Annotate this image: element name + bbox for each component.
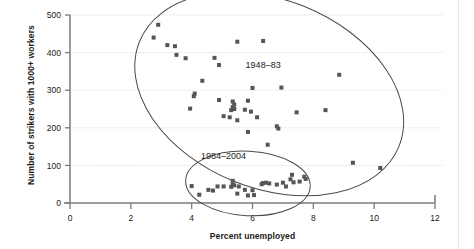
svg-text:200: 200: [47, 123, 61, 133]
svg-text:1984–2004: 1984–2004: [201, 151, 246, 161]
svg-text:100: 100: [47, 161, 61, 171]
x-axis-ticks: 024681012: [68, 203, 440, 223]
svg-text:2: 2: [128, 213, 133, 223]
svg-text:4: 4: [189, 213, 194, 223]
y-axis-title: Number of strikers with 1000+ workers: [26, 10, 36, 200]
svg-text:1948–83: 1948–83: [246, 60, 281, 70]
scatter-chart: 0100200300400500 024681012 1948–831984–2…: [0, 0, 474, 249]
y-axis-ticks: 0100200300400500: [47, 10, 70, 208]
svg-text:12: 12: [430, 213, 440, 223]
plot-area: 0100200300400500 024681012 1948–831984–2…: [0, 0, 474, 249]
cluster-ellipses: [104, 0, 434, 234]
svg-text:0: 0: [68, 213, 73, 223]
data-points: [152, 23, 383, 198]
gridlines: [70, 15, 443, 165]
svg-text:0: 0: [56, 198, 61, 208]
svg-text:300: 300: [47, 85, 61, 95]
svg-text:6: 6: [250, 213, 255, 223]
svg-text:10: 10: [369, 213, 379, 223]
axis-lines: [64, 15, 435, 203]
page-edge-line: [458, 0, 459, 249]
svg-text:500: 500: [47, 10, 61, 20]
x-axis-title: Percent unemployed: [70, 231, 435, 241]
svg-text:400: 400: [47, 48, 61, 58]
svg-text:8: 8: [311, 213, 316, 223]
